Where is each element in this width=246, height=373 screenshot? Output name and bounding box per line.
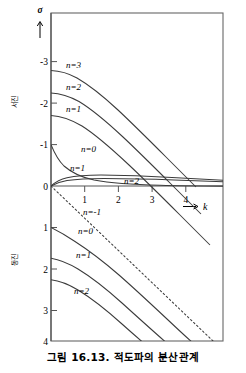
axis-side-label-eastward: 동진 <box>9 242 19 278</box>
curve-label-westward-n1: n=1 <box>66 104 81 114</box>
figure-equatorial-wave-dispersion: σ k -3 -2 -1 0 1 2 3 4 1 2 3 4 <box>0 0 246 373</box>
y-tick-label-3: 3 <box>43 306 48 316</box>
curve-label-kelvin-n-minus1: n=-1 <box>83 207 101 217</box>
x-tick-label-3: 3 <box>150 195 155 205</box>
y-tick-label-4: 4 <box>43 337 48 347</box>
figure-caption: 그림 16.13. 적도파의 분산관계 <box>0 349 246 364</box>
axis-side-label-westward: 서진 <box>9 84 19 120</box>
y-tick-label-minus2: -2 <box>40 99 48 109</box>
y-tick-label-1: 1 <box>43 223 48 233</box>
curve-label-rossby-n2: n=2 <box>124 176 140 186</box>
x-axis-symbol-k: k <box>203 201 208 212</box>
curve-label-rossby-n1: n=1 <box>70 163 85 173</box>
curve-label-rossby-n0: n=0 <box>81 144 97 154</box>
y-axis-symbol-sigma: σ <box>37 5 43 15</box>
curve-label-westward-n3: n=3 <box>66 60 82 70</box>
curve-label-eastward-n2: n=2 <box>74 286 90 296</box>
curve-label-westward-n2: n=2 <box>66 82 82 92</box>
y-tick-label-minus1: -1 <box>40 140 48 150</box>
y-axis-arrow-up-icon <box>37 22 42 39</box>
y-tick-label-minus3: -3 <box>40 57 48 67</box>
x-tick-label-1: 1 <box>82 195 87 205</box>
y-tick-label-zero: 0 <box>43 182 48 192</box>
x-tick-label-2: 2 <box>116 195 121 205</box>
y-tick-label-2: 2 <box>43 265 48 275</box>
curve-label-eastward-n1: n=1 <box>76 250 91 260</box>
curve-label-eastward-n0: n=0 <box>78 226 94 236</box>
